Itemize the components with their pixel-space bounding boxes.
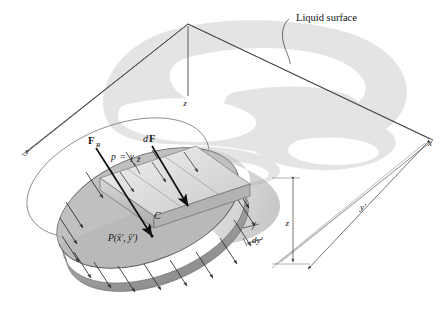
svg-text:F: F [149, 133, 155, 144]
svg-text:F: F [88, 135, 94, 146]
liquid-surface-label: Liquid surface [296, 12, 357, 23]
yprime-label: y' [359, 202, 367, 212]
depth-dimension [272, 178, 310, 264]
strip-width-label: dy' [252, 235, 263, 245]
axis-label-z: z [182, 98, 187, 108]
svg-text:=: = [120, 152, 125, 162]
centroid-marker [149, 227, 152, 230]
centroid-label: C [154, 210, 161, 221]
svg-text:R: R [95, 141, 101, 149]
resultant-force-label: F R [88, 135, 101, 149]
center-of-pressure-marker [150, 234, 153, 237]
hydrostatic-pressure-figure: y x z Liquid surface [0, 0, 442, 316]
svg-text:p: p [110, 152, 116, 162]
differential-force-label: d F [143, 133, 155, 144]
center-of-pressure-label: P(x̄', ȳ') [107, 233, 137, 244]
axis-label-y: y [24, 146, 29, 156]
svg-text:γ: γ [130, 152, 134, 162]
depth-label: z [284, 218, 289, 228]
